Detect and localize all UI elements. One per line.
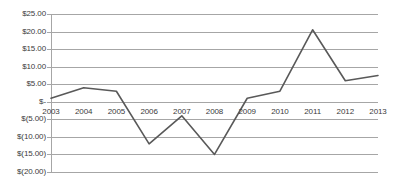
y-axis-labels: $25.00$20.00$15.00$10.00$5.00$-$(5.00)$(… [0, 0, 46, 193]
y-tick-mark [47, 172, 51, 173]
x-axis-labels: 2003200420052006200720082009201020112012… [51, 107, 378, 119]
x-tick-label: 2003 [42, 107, 59, 117]
y-tick-mark [47, 49, 51, 50]
x-tick-label: 2005 [108, 107, 125, 117]
y-tick-label: $(15.00) [17, 150, 46, 158]
y-tick-label: $5.00 [26, 80, 46, 88]
y-tick-mark [47, 154, 51, 155]
x-tick-label: 2008 [206, 107, 223, 117]
x-tick-label: 2009 [238, 107, 255, 117]
x-tick-label: 2006 [140, 107, 157, 117]
x-tick-label: 2012 [337, 107, 354, 117]
plot-area [51, 14, 378, 172]
x-tick-label: 2010 [271, 107, 288, 117]
series-line [51, 14, 378, 172]
y-tick-mark [47, 32, 51, 33]
x-tick-label: 2004 [75, 107, 92, 117]
y-tick-mark [47, 119, 51, 120]
y-tick-label: $(10.00) [17, 133, 46, 141]
y-tick-label: $20.00 [22, 28, 46, 36]
y-tick-mark [47, 14, 51, 15]
y-tick-mark [47, 102, 51, 103]
x-tick-label: 2011 [304, 107, 321, 117]
y-tick-mark [47, 137, 51, 138]
y-tick-label: $25.00 [22, 10, 46, 18]
y-tick-mark [47, 84, 51, 85]
x-tick-label: 2013 [369, 107, 386, 117]
y-tick-mark [47, 67, 51, 68]
x-tick-label: 2007 [173, 107, 190, 117]
y-tick-label: $15.00 [22, 45, 46, 53]
grid-line [51, 172, 378, 173]
y-tick-label: $(20.00) [17, 168, 46, 176]
y-tick-label: $10.00 [22, 63, 46, 71]
y-tick-label: $- [39, 98, 46, 106]
line-chart: $25.00$20.00$15.00$10.00$5.00$-$(5.00)$(… [0, 0, 400, 193]
data-series-line [51, 30, 378, 155]
